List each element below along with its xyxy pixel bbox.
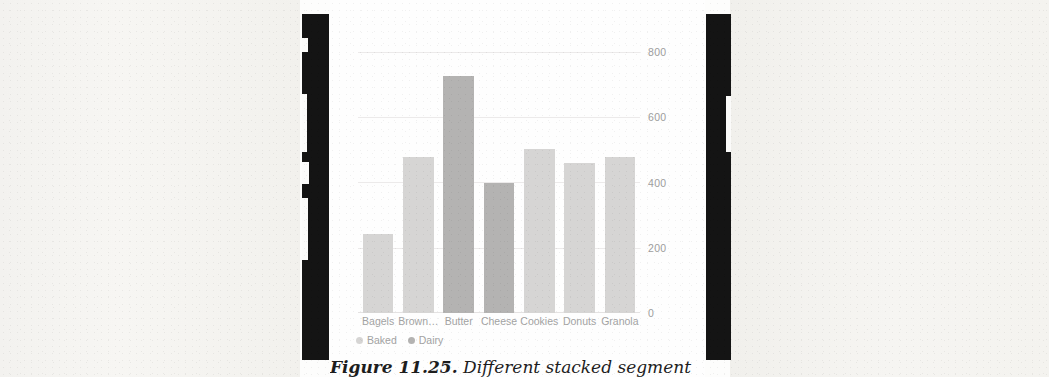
- bar-slot: [358, 52, 398, 313]
- x-axis-category-label: Bagels: [358, 315, 398, 327]
- chart-legend: BakedDairy: [356, 334, 443, 346]
- scanned-page: 8006004002000 BagelsBrown…ButterCheeseCo…: [0, 0, 1049, 377]
- gutter-nick: [302, 94, 307, 152]
- x-axis-category-label: Donuts: [559, 315, 599, 327]
- bar-slot: [559, 52, 599, 313]
- gutter-nick: [726, 96, 731, 152]
- legend-item-label: Baked: [367, 334, 397, 346]
- bar[interactable]: [443, 76, 474, 314]
- bar[interactable]: [605, 157, 636, 313]
- bar[interactable]: [403, 157, 434, 313]
- x-axis-category-label: Cheese: [479, 315, 519, 327]
- legend-swatch-icon: [356, 337, 363, 344]
- legend-item[interactable]: Baked: [356, 334, 397, 346]
- gutter-nick: [302, 38, 308, 52]
- x-axis-category-labels: BagelsBrown…ButterCheeseCookiesDonutsGra…: [358, 315, 640, 327]
- gutter-nick: [302, 162, 309, 184]
- x-axis-category-label: Granola: [600, 315, 640, 327]
- x-axis-category-label: Butter: [439, 315, 479, 327]
- y-axis-tick-label: 0: [648, 307, 654, 319]
- figure-caption-number: Figure 11.25.: [330, 357, 458, 377]
- bar-slot: [600, 52, 640, 313]
- y-axis-tick-label: 600: [648, 111, 666, 123]
- y-axis-tick-labels: 8006004002000: [648, 52, 696, 313]
- y-axis-tick-label: 400: [648, 177, 666, 189]
- legend-item[interactable]: Dairy: [408, 334, 444, 346]
- legend-swatch-icon: [408, 337, 415, 344]
- bar-slot: [479, 52, 519, 313]
- page-paper-left: [0, 0, 300, 377]
- bar-slot: [519, 52, 559, 313]
- bar[interactable]: [524, 149, 555, 313]
- y-axis-tick-label: 200: [648, 242, 666, 254]
- bar[interactable]: [363, 234, 394, 313]
- scan-gutter-shadow-right: [706, 14, 731, 360]
- x-axis-category-label: Brown…: [398, 315, 438, 327]
- figure-caption: Figure 11.25. Different stacked segment: [330, 357, 810, 377]
- bar[interactable]: [564, 163, 595, 313]
- bar-chart-figure: 8006004002000 BagelsBrown…ButterCheeseCo…: [330, 6, 705, 346]
- scan-gutter-shadow-left: [302, 14, 329, 360]
- legend-item-label: Dairy: [419, 334, 444, 346]
- bar-slot: [398, 52, 438, 313]
- y-axis-tick-label: 800: [648, 46, 666, 58]
- bar[interactable]: [484, 183, 515, 313]
- gutter-nick: [302, 198, 308, 260]
- bar-group: [358, 52, 640, 313]
- bar-slot: [439, 52, 479, 313]
- x-axis-category-label: Cookies: [519, 315, 559, 327]
- plot-area: [358, 52, 640, 313]
- figure-caption-text: Different stacked segment: [463, 357, 691, 377]
- page-paper-right: [730, 0, 1049, 377]
